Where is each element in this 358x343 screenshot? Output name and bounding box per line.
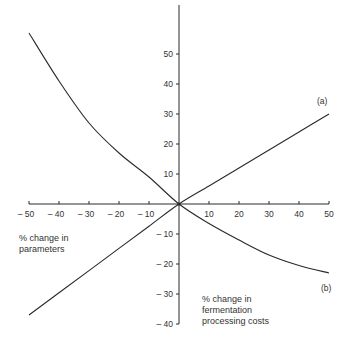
x-tick-label: – 20 [108, 209, 125, 219]
y-axis-title-line2: fermentation [202, 305, 252, 315]
x-tick-label: 20 [234, 209, 244, 219]
y-ticks: 5040302010– 10– 20– 30– 40 [156, 49, 179, 329]
chart: – 50– 40– 30– 20– 101020304050 504030201… [0, 0, 358, 343]
y-tick-label: 40 [164, 79, 174, 89]
x-tick-label: – 10 [138, 209, 155, 219]
y-tick-label: 50 [164, 49, 174, 59]
x-axis-title-line2: parameters [19, 244, 65, 254]
y-axis-title-line1: % change in [202, 294, 252, 304]
x-tick-label: 40 [294, 209, 304, 219]
y-tick-label: – 20 [156, 259, 173, 269]
y-tick-label: – 40 [156, 319, 173, 329]
series-a-label: (a) [317, 96, 328, 106]
x-tick-label: – 30 [78, 209, 95, 219]
origin-point [177, 202, 180, 205]
y-tick-label: 10 [164, 169, 174, 179]
y-tick-label: 20 [164, 139, 174, 149]
x-tick-label: 50 [324, 209, 334, 219]
x-tick-label: 30 [264, 209, 274, 219]
x-tick-label: 10 [204, 209, 214, 219]
axes [29, 5, 329, 324]
y-tick-label: – 10 [156, 229, 173, 239]
y-tick-label: – 30 [156, 289, 173, 299]
y-axis-title-line3: processing costs [202, 316, 270, 326]
x-tick-label: – 40 [48, 209, 65, 219]
series-b-label: (b) [321, 283, 332, 293]
y-tick-label: 30 [164, 109, 174, 119]
x-tick-label: – 50 [18, 209, 35, 219]
x-axis-title-line1: % change in [19, 233, 69, 243]
